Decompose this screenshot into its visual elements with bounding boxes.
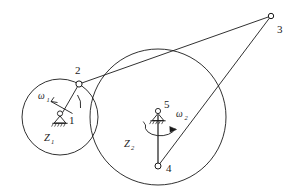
label-gear-2: Z 2 — [124, 138, 135, 151]
fixed-pivot-1-ground-symbol — [52, 111, 68, 127]
svg-text:1: 1 — [47, 96, 50, 103]
label-joint-4: 4 — [166, 162, 172, 174]
svg-text:2: 2 — [185, 114, 189, 121]
label-joint-2: 2 — [75, 64, 81, 76]
svg-text:2: 2 — [131, 144, 135, 151]
svg-text:Z: Z — [44, 132, 50, 143]
label-joint-1: 1 — [69, 114, 75, 126]
label-omega-1: ω 1 — [38, 91, 50, 103]
joint-3-revolute — [268, 13, 273, 18]
mechanism-drawing-canvas: 1 2 3 4 5 ω 1 ω 2 Z 1 Z 2 — [0, 0, 297, 195]
joint-4-revolute — [155, 163, 161, 169]
omega-1-rotation-arrow — [51, 95, 81, 114]
svg-text:ω: ω — [176, 109, 183, 119]
label-joint-3: 3 — [277, 23, 283, 35]
omega-2-rotation-arrow — [143, 122, 176, 136]
svg-text:ω: ω — [38, 91, 45, 101]
label-joint-5: 5 — [164, 98, 170, 110]
joint-2-revolute — [76, 81, 82, 87]
label-omega-2: ω 2 — [176, 109, 189, 121]
label-gear-1: Z 1 — [44, 132, 54, 145]
svg-text:1: 1 — [51, 138, 54, 145]
link-2-3-coupler — [79, 16, 271, 84]
kinematic-diagram: 1 2 3 4 5 ω 1 ω 2 Z 1 Z 2 — [0, 0, 297, 195]
svg-text:Z: Z — [124, 138, 130, 149]
link-3-4-rocker — [158, 16, 271, 166]
